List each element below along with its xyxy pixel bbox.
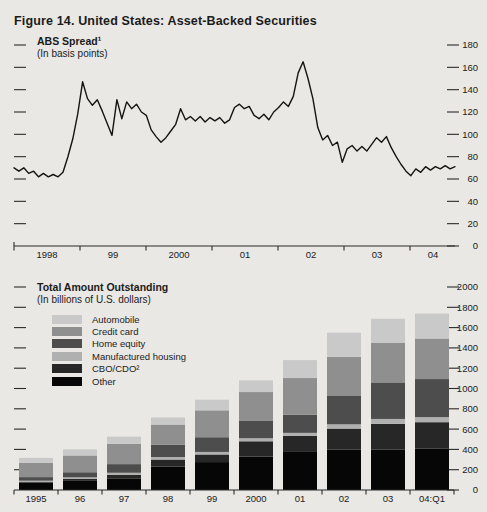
y-tick-label: 160	[462, 62, 478, 73]
bar-98	[151, 417, 185, 490]
bar-segment-CBO/CDO²	[151, 460, 185, 467]
bar-segment-Manufactured housing	[327, 424, 361, 428]
bar-segment-Credit card	[327, 357, 361, 396]
bar-01	[283, 360, 317, 490]
bar-segment-Home equity	[107, 464, 141, 473]
x-tick-label: 97	[119, 493, 130, 504]
bar-segment-Automobile	[327, 333, 361, 357]
legend-label: Home equity	[92, 338, 145, 349]
bar-segment-Other	[371, 449, 405, 490]
bar-segment-Automobile	[107, 437, 141, 444]
x-tick-label: 98	[163, 493, 174, 504]
figure-page: { "figure_title": "Figure 14. United Sta…	[0, 0, 487, 512]
bar-segment-Credit card	[19, 463, 53, 477]
legend-swatch-credit-card	[52, 327, 82, 336]
bar-2000	[239, 380, 273, 490]
bar-segment-Credit card	[63, 455, 97, 472]
bar-segment-Home equity	[327, 395, 361, 424]
bar-04:Q1	[415, 314, 449, 490]
bottom-chart-header: Total Amount Outstanding (In billions of…	[37, 281, 168, 306]
bar-segment-Other	[19, 483, 53, 490]
bar-segment-Manufactured housing	[19, 481, 53, 482]
bar-1995	[19, 458, 53, 490]
legend-item: CBO/CDO²	[52, 363, 186, 375]
y-tick-label: 400	[462, 444, 478, 455]
top-chart-subtitle: (In basis points)	[37, 48, 108, 61]
bar-segment-Other	[107, 478, 141, 490]
bar-segment-Other	[63, 481, 97, 490]
bar-segment-Other	[327, 449, 361, 490]
x-tick-label: 2000	[168, 249, 189, 260]
bar-segment-Automobile	[19, 458, 53, 463]
legend-item: Automobile	[52, 313, 186, 325]
x-tick-label: 04:Q1	[419, 493, 445, 504]
bar-segment-Manufactured housing	[195, 452, 229, 455]
bar-segment-CBO/CDO²	[63, 479, 97, 481]
legend-swatch-automobile	[52, 315, 82, 324]
bar-segment-Credit card	[283, 378, 317, 415]
bar-segment-Home equity	[195, 437, 229, 452]
bar-segment-Manufactured housing	[63, 477, 97, 479]
legend-label: CBO/CDO²	[92, 363, 140, 374]
x-tick-label: 01	[295, 493, 306, 504]
legend-label: Automobile	[92, 314, 140, 325]
y-tick-label: 600	[462, 424, 478, 435]
legend-label: Manufactured housing	[92, 351, 186, 362]
bar-segment-CBO/CDO²	[195, 454, 229, 462]
bar-segment-Automobile	[63, 449, 97, 455]
bar-segment-Manufactured housing	[371, 419, 405, 424]
y-tick-label: 20	[467, 218, 478, 229]
figure-title: Figure 14. United States: Asset-Backed S…	[14, 14, 317, 28]
bar-segment-CBO/CDO²	[415, 422, 449, 448]
x-tick-label: 02	[339, 493, 350, 504]
bar-segment-Home equity	[283, 415, 317, 433]
bar-segment-Other	[283, 452, 317, 490]
abs-spread-chart: 0204060801001201401601801998992000010203…	[14, 39, 478, 260]
y-tick-label: 180	[462, 39, 478, 50]
bar-96	[63, 449, 97, 490]
bar-segment-Home equity	[151, 445, 185, 457]
bar-segment-Credit card	[151, 425, 185, 445]
bar-segment-Credit card	[107, 444, 141, 464]
legend-item: Home equity	[52, 338, 186, 350]
y-tick-label: 100	[462, 129, 478, 140]
x-tick-label: 02	[306, 249, 317, 260]
x-tick-label: 1995	[25, 493, 46, 504]
bottom-chart-subtitle: (In billions of U.S. dollars)	[37, 294, 168, 307]
bar-segment-Manufactured housing	[415, 417, 449, 422]
bottom-chart-title: Total Amount Outstanding	[37, 281, 168, 294]
bar-segment-Automobile	[415, 314, 449, 339]
y-tick-label: 0	[473, 240, 478, 251]
bar-segment-Automobile	[283, 360, 317, 378]
bar-segment-Manufactured housing	[239, 438, 273, 441]
bar-segment-Credit card	[195, 410, 229, 437]
bar-segment-Credit card	[371, 343, 405, 383]
bar-97	[107, 437, 141, 490]
y-tick-label: 80	[467, 151, 478, 162]
top-chart-header: ABS Spread¹ (In basis points)	[37, 35, 108, 60]
bar-03	[371, 319, 405, 490]
y-tick-label: 1000	[457, 383, 478, 394]
y-tick-label: 120	[462, 106, 478, 117]
bar-segment-Home equity	[63, 472, 97, 477]
legend-swatch-cbo-cdo	[52, 364, 82, 373]
x-tick-label: 99	[207, 493, 218, 504]
bar-segment-Home equity	[371, 382, 405, 419]
y-tick-label: 1600	[457, 322, 478, 333]
legend-label: Other	[92, 376, 116, 387]
legend-swatch-other	[52, 377, 82, 386]
bar-02	[327, 333, 361, 490]
legend-label: Credit card	[92, 326, 138, 337]
y-tick-label: 1400	[457, 342, 478, 353]
y-tick-label: 60	[467, 173, 478, 184]
bar-segment-Home equity	[19, 477, 53, 481]
x-tick-label: 03	[372, 249, 383, 260]
x-tick-label: 1998	[36, 249, 57, 260]
legend-item: Credit card	[52, 325, 186, 337]
bar-segment-Credit card	[239, 392, 273, 421]
y-tick-label: 140	[462, 84, 478, 95]
bar-segment-Other	[151, 467, 185, 490]
y-tick-label: 800	[462, 403, 478, 414]
bar-segment-Manufactured housing	[283, 433, 317, 436]
bar-segment-Automobile	[195, 400, 229, 411]
